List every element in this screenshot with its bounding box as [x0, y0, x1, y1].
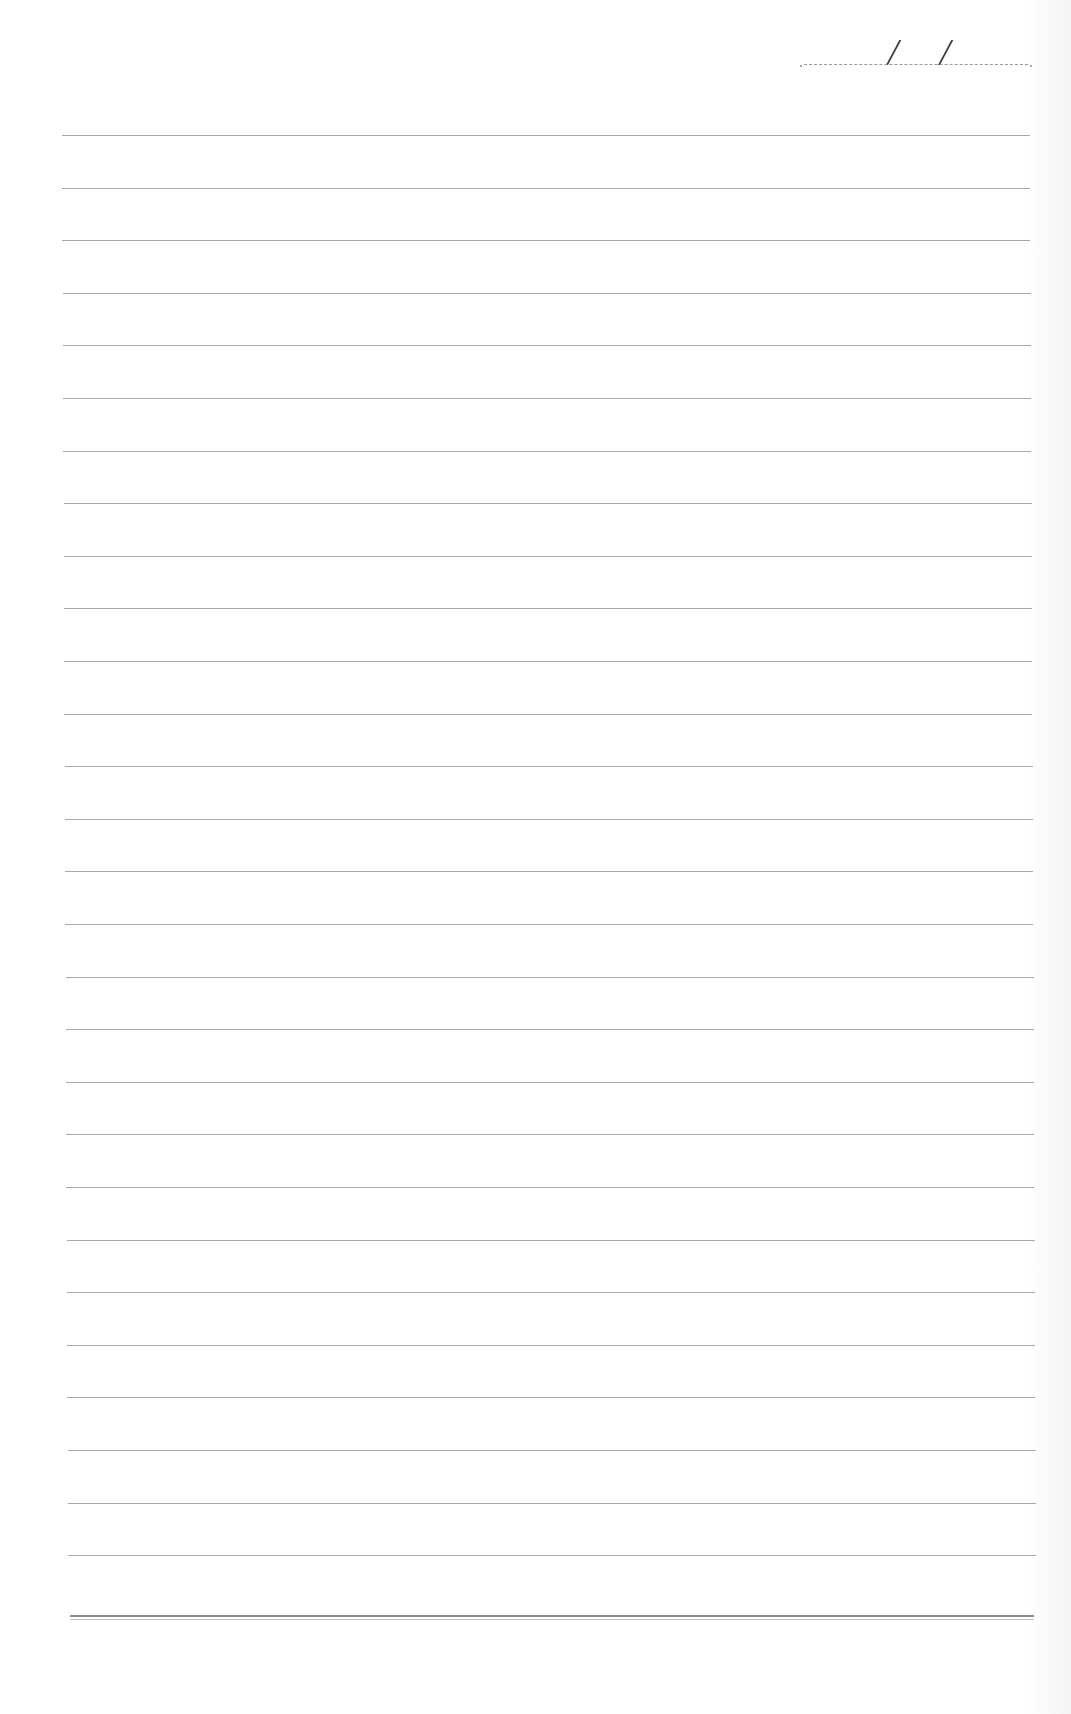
- date-separator-1: [886, 40, 901, 65]
- ruled-line[interactable]: [68, 1555, 1036, 1556]
- ruled-line[interactable]: [63, 293, 1031, 294]
- ruled-line[interactable]: [65, 924, 1033, 925]
- ruled-line[interactable]: [65, 819, 1033, 820]
- ruled-line[interactable]: [68, 1503, 1036, 1504]
- ruled-line[interactable]: [66, 1187, 1034, 1188]
- ruled-line[interactable]: [66, 1029, 1034, 1030]
- ruled-line[interactable]: [64, 661, 1032, 662]
- date-dotted-underline: [804, 64, 1028, 65]
- ruled-line[interactable]: [63, 398, 1031, 399]
- ruled-line[interactable]: [66, 1082, 1034, 1083]
- notebook-page: [0, 0, 1071, 1714]
- ruled-line[interactable]: [65, 766, 1033, 767]
- ruled-line[interactable]: [67, 1292, 1035, 1293]
- ruled-line[interactable]: [64, 608, 1032, 609]
- ruled-line[interactable]: [63, 345, 1031, 346]
- ruled-line[interactable]: [64, 503, 1032, 504]
- ruled-line[interactable]: [68, 1450, 1036, 1451]
- ruled-line[interactable]: [66, 1134, 1034, 1135]
- date-dot-right: [1030, 65, 1032, 67]
- date-dot-left: [800, 65, 802, 67]
- ruled-line[interactable]: [65, 871, 1033, 872]
- ruled-line[interactable]: [66, 977, 1034, 978]
- ruled-line[interactable]: [67, 1397, 1035, 1398]
- ruled-line[interactable]: [62, 188, 1030, 189]
- ruled-line[interactable]: [64, 556, 1032, 557]
- ruled-line[interactable]: [63, 451, 1031, 452]
- date-field[interactable]: [800, 38, 1032, 68]
- ruled-line[interactable]: [67, 1240, 1035, 1241]
- date-separator-2: [938, 40, 953, 65]
- ruled-line[interactable]: [62, 240, 1030, 241]
- ruled-line[interactable]: [64, 714, 1032, 715]
- ruled-line[interactable]: [67, 1345, 1035, 1346]
- ruled-line[interactable]: [62, 135, 1030, 136]
- bottom-double-rule: [70, 1615, 1034, 1617]
